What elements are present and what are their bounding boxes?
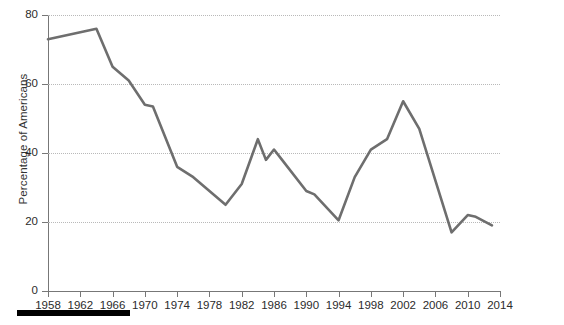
line-series: [48, 15, 500, 292]
footer-black-bar: [17, 310, 130, 316]
y-tick-label-40: 40: [0, 146, 38, 158]
x-tick-mark-2014: [500, 291, 501, 297]
y-tick-label-80: 80: [0, 8, 38, 20]
y-tick-label-60: 60: [0, 77, 38, 89]
y-tick-label-0: 0: [0, 284, 38, 296]
y-tick-label-20: 20: [0, 215, 38, 227]
x-tick-label-2014: 2014: [478, 299, 522, 311]
series-polyline: [48, 29, 492, 233]
chart-container: Percentage of Americans 020406080 195819…: [0, 0, 564, 325]
